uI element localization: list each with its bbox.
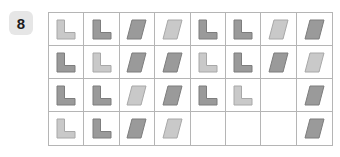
l-shape-light-icon — [92, 52, 112, 73]
l-shape-dark-icon — [233, 52, 253, 73]
l-shape-dark-icon — [198, 19, 218, 40]
grid-cell[interactable] — [120, 46, 155, 79]
grid-cell[interactable] — [297, 13, 332, 46]
l-shape-light-icon — [56, 19, 76, 40]
parallelogram-dark-icon — [162, 52, 183, 73]
grid-cell-empty[interactable] — [261, 79, 296, 112]
l-shape-dark-icon — [56, 85, 76, 106]
parallelogram-dark-icon — [162, 85, 183, 106]
grid-cell-empty[interactable] — [226, 112, 261, 145]
grid-cell[interactable] — [155, 112, 190, 145]
grid-cell-empty[interactable] — [261, 112, 296, 145]
grid-cell[interactable] — [84, 79, 119, 112]
parallelogram-dark-icon — [304, 85, 325, 106]
parallelogram-dark-icon — [126, 118, 147, 139]
grid-cell[interactable] — [84, 13, 119, 46]
grid-cell[interactable] — [226, 46, 261, 79]
l-shape-light-icon — [198, 52, 218, 73]
item-number-label: 8 — [17, 16, 25, 31]
grid-cell[interactable] — [155, 46, 190, 79]
parallelogram-dark-icon — [268, 52, 289, 73]
grid-cell[interactable] — [120, 79, 155, 112]
grid-cell[interactable] — [297, 79, 332, 112]
parallelogram-light-icon — [304, 52, 325, 73]
l-shape-dark-icon — [198, 85, 218, 106]
parallelogram-dark-icon — [126, 52, 147, 73]
parallelogram-light-icon — [162, 118, 183, 139]
l-shape-dark-icon — [92, 118, 112, 139]
item-number-badge: 8 — [9, 11, 33, 35]
grid-cell[interactable] — [49, 79, 84, 112]
parallelogram-dark-icon — [304, 19, 325, 40]
grid-cell-empty[interactable] — [191, 112, 226, 145]
grid-cell[interactable] — [155, 13, 190, 46]
grid-cell[interactable] — [261, 13, 296, 46]
grid-cell[interactable] — [297, 46, 332, 79]
parallelogram-light-icon — [126, 85, 147, 106]
parallelogram-dark-icon — [126, 19, 147, 40]
grid-cell[interactable] — [49, 13, 84, 46]
l-shape-dark-icon — [92, 19, 112, 40]
grid-cell[interactable] — [49, 46, 84, 79]
shape-grid — [49, 13, 332, 145]
parallelogram-dark-icon — [304, 118, 325, 139]
l-shape-dark-icon — [56, 52, 76, 73]
grid-cell[interactable] — [226, 13, 261, 46]
parallelogram-light-icon — [162, 19, 183, 40]
puzzle-panel: 8 — [0, 0, 340, 157]
grid-cell[interactable] — [261, 46, 296, 79]
grid-cell[interactable] — [297, 112, 332, 145]
grid-cell[interactable] — [191, 79, 226, 112]
l-shape-dark-icon — [92, 85, 112, 106]
grid-cell[interactable] — [84, 46, 119, 79]
grid-cell[interactable] — [49, 112, 84, 145]
grid-cell[interactable] — [226, 79, 261, 112]
grid-cell[interactable] — [191, 13, 226, 46]
parallelogram-light-icon — [268, 19, 289, 40]
l-shape-light-icon — [56, 118, 76, 139]
shape-grid-container — [48, 12, 333, 146]
grid-cell[interactable] — [191, 46, 226, 79]
l-shape-light-icon — [233, 85, 253, 106]
grid-cell[interactable] — [155, 79, 190, 112]
grid-cell[interactable] — [120, 13, 155, 46]
grid-cell[interactable] — [120, 112, 155, 145]
l-shape-dark-icon — [233, 19, 253, 40]
grid-cell[interactable] — [84, 112, 119, 145]
